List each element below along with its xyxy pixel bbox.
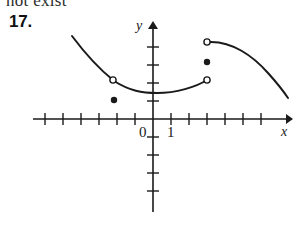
- y-axis-arrow-icon: [148, 21, 158, 29]
- open-circle-point: [204, 39, 210, 45]
- curve-left-branch: [72, 36, 113, 80]
- graph-figure: x y 0 1: [0, 0, 298, 249]
- x-axis-arrow-icon: [286, 114, 293, 124]
- curve-right-branch: [209, 42, 288, 98]
- curve-middle-branch: [114, 80, 207, 93]
- y-axis-label: y: [134, 18, 143, 33]
- x-unit-tick-label: 1: [167, 124, 175, 140]
- y-axis: y: [134, 18, 159, 212]
- x-axis-label: x: [280, 124, 288, 139]
- figure-page: not exist 17. x: [0, 0, 298, 249]
- filled-dot-point: [204, 59, 210, 65]
- filled-dot-point: [111, 97, 117, 103]
- origin-tick-label: 0: [139, 124, 147, 140]
- open-circle-point: [110, 77, 116, 83]
- open-circle-point: [204, 77, 210, 83]
- x-axis: x: [33, 113, 293, 139]
